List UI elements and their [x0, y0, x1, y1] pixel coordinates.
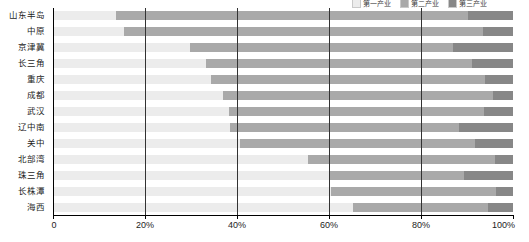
- bar-segment[interactable]: [472, 59, 513, 68]
- bar-row[interactable]: [53, 75, 513, 84]
- bar-segment[interactable]: [229, 107, 484, 116]
- bar-segment[interactable]: [495, 155, 513, 164]
- y-axis-label: 关中: [27, 139, 45, 148]
- bar-segment[interactable]: [484, 107, 513, 116]
- bar-segment[interactable]: [468, 11, 513, 20]
- y-axis-label: 京津冀: [18, 43, 45, 52]
- bar-segment[interactable]: [493, 91, 513, 100]
- bar-segment[interactable]: [53, 203, 353, 212]
- bar-segment[interactable]: [211, 75, 485, 84]
- x-axis-labels: 020%40%60%80%100%: [0, 219, 529, 235]
- legend-label: 第三产业: [459, 0, 487, 7]
- y-axis-label: 北部湾: [18, 155, 45, 164]
- legend-label: 第二产业: [411, 0, 439, 7]
- bar-segment[interactable]: [483, 27, 513, 36]
- x-axis-line: [53, 215, 514, 216]
- x-axis-label: 40%: [228, 221, 246, 230]
- bar-segment[interactable]: [53, 43, 190, 52]
- bar-segment[interactable]: [53, 75, 211, 84]
- bar-row[interactable]: [53, 91, 513, 100]
- y-axis-label: 中原: [27, 27, 45, 36]
- legend-label: 第一产业: [363, 0, 391, 7]
- bar-segment[interactable]: [124, 27, 483, 36]
- x-axis-label: 100%: [492, 221, 515, 230]
- x-axis-label: 80%: [412, 221, 430, 230]
- legend-swatch: [448, 0, 457, 8]
- bar-row[interactable]: [53, 27, 513, 36]
- bar-segment[interactable]: [488, 203, 513, 212]
- bar-segment[interactable]: [53, 187, 331, 196]
- x-axis-label: 0: [52, 221, 57, 230]
- gridline: [237, 8, 238, 215]
- bar-row[interactable]: [53, 171, 513, 180]
- bar-segment[interactable]: [240, 139, 475, 148]
- bar-segment[interactable]: [206, 59, 472, 68]
- bar-segment[interactable]: [331, 187, 496, 196]
- bar-segment[interactable]: [475, 139, 513, 148]
- bar-segment[interactable]: [485, 75, 513, 84]
- bar-segment[interactable]: [53, 107, 229, 116]
- y-axis-label: 长三角: [18, 59, 45, 68]
- gridline: [145, 8, 146, 215]
- bar-segment[interactable]: [459, 123, 513, 132]
- bar-segment[interactable]: [230, 123, 459, 132]
- bar-row[interactable]: [53, 11, 513, 20]
- x-axis-label: 20%: [136, 221, 154, 230]
- bar-row[interactable]: [53, 203, 513, 212]
- bar-row[interactable]: [53, 187, 513, 196]
- bar-row[interactable]: [53, 43, 513, 52]
- bar-segment[interactable]: [223, 91, 493, 100]
- y-axis-label: 长株潭: [18, 187, 45, 196]
- legend-swatch: [352, 0, 361, 8]
- bar-segment[interactable]: [308, 155, 495, 164]
- bar-row[interactable]: [53, 155, 513, 164]
- bar-segment[interactable]: [53, 139, 240, 148]
- gridline: [421, 8, 422, 215]
- bar-segment[interactable]: [330, 171, 464, 180]
- y-axis-label: 辽中南: [18, 123, 45, 132]
- bar-segment[interactable]: [53, 27, 124, 36]
- bar-row[interactable]: [53, 139, 513, 148]
- stacked-bar-chart: 第一产业第二产业第三产业 山东半岛中原京津冀长三角重庆成都武汉辽中南关中北部湾珠…: [0, 0, 529, 242]
- bar-segment[interactable]: [496, 187, 513, 196]
- plot-area: [53, 8, 513, 215]
- bar-segment[interactable]: [116, 11, 468, 20]
- bar-segment[interactable]: [53, 59, 206, 68]
- y-axis-label: 珠三角: [18, 171, 45, 180]
- bar-segment[interactable]: [53, 11, 116, 20]
- bar-segment[interactable]: [53, 123, 230, 132]
- legend-item[interactable]: 第一产业: [352, 0, 391, 8]
- bar-row[interactable]: [53, 107, 513, 116]
- y-axis-line: [53, 8, 54, 215]
- legend-item[interactable]: 第二产业: [400, 0, 439, 8]
- y-axis-label: 重庆: [27, 75, 45, 84]
- y-axis-label: 海西: [27, 203, 45, 212]
- bar-row[interactable]: [53, 123, 513, 132]
- bar-segment[interactable]: [53, 155, 308, 164]
- bar-row[interactable]: [53, 59, 513, 68]
- bar-segment[interactable]: [53, 171, 330, 180]
- x-axis-label: 60%: [320, 221, 338, 230]
- legend-swatch: [400, 0, 409, 8]
- bar-segment[interactable]: [453, 43, 513, 52]
- gridline: [329, 8, 330, 215]
- bars-container: [53, 8, 513, 215]
- bar-segment[interactable]: [53, 91, 223, 100]
- y-axis-label: 武汉: [27, 107, 45, 116]
- legend-item[interactable]: 第三产业: [448, 0, 487, 8]
- bar-segment[interactable]: [464, 171, 513, 180]
- bar-segment[interactable]: [190, 43, 453, 52]
- y-axis-label: 成都: [27, 91, 45, 100]
- y-axis-label: 山东半岛: [9, 11, 45, 20]
- y-axis-labels: 山东半岛中原京津冀长三角重庆成都武汉辽中南关中北部湾珠三角长株潭海西: [0, 8, 49, 215]
